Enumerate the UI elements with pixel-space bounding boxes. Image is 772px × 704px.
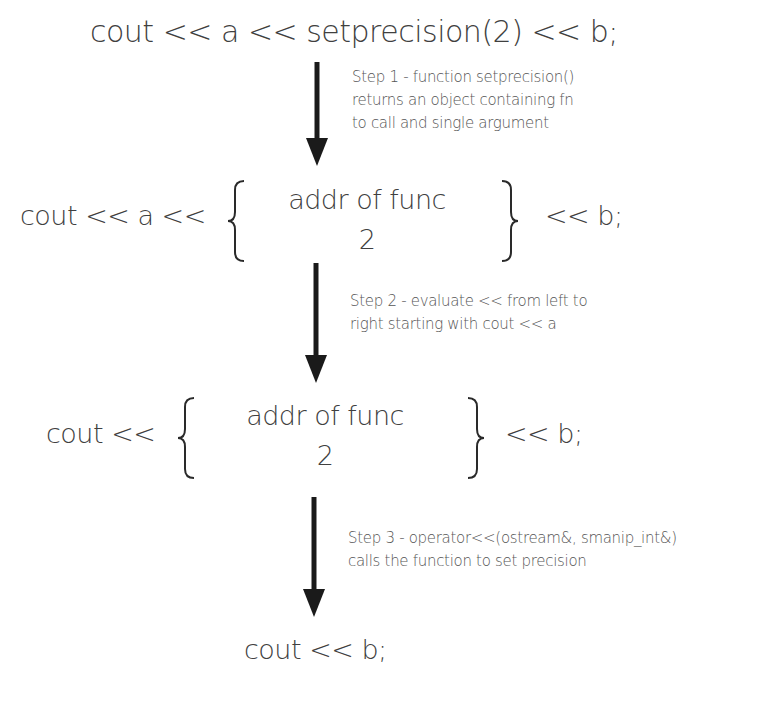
left-brace-icon <box>226 180 246 262</box>
stage1-expression: cout << a << setprecision(2) << b; <box>90 14 618 49</box>
stage3-object: addr of func 2 <box>220 396 430 476</box>
object-argument: 2 <box>262 220 472 260</box>
left-brace-icon <box>176 397 196 479</box>
step3-note: Step 3 - operator<<(ostream&, smanip_int… <box>348 527 677 573</box>
stage2-right: << b; <box>545 200 623 231</box>
right-brace-icon <box>466 397 486 479</box>
down-arrow-icon <box>304 263 328 383</box>
stage4-expression: cout << b; <box>244 634 387 665</box>
right-brace-icon <box>500 180 520 262</box>
stage3-left: cout << <box>46 418 155 449</box>
step1-line: to call and single argument <box>352 112 574 135</box>
step1-line: Step 1 - function setprecision() <box>352 66 574 89</box>
stage3-right: << b; <box>505 418 583 449</box>
object-argument: 2 <box>220 436 430 476</box>
step2-note: Step 2 - evaluate << from left to right … <box>350 290 587 336</box>
step1-note: Step 1 - function setprecision() returns… <box>352 66 574 135</box>
step2-line: Step 2 - evaluate << from left to <box>350 290 587 313</box>
down-arrow-icon <box>302 497 326 617</box>
down-arrow-icon <box>305 62 329 166</box>
object-func-address: addr of func <box>220 396 430 436</box>
stage2-object: addr of func 2 <box>262 180 472 260</box>
step2-line: right starting with cout << a <box>350 313 587 336</box>
object-func-address: addr of func <box>262 180 472 220</box>
step1-line: returns an object containing fn <box>352 89 574 112</box>
step3-line: calls the function to set precision <box>348 550 677 573</box>
stage2-left: cout << a << <box>20 200 206 231</box>
step3-line: Step 3 - operator<<(ostream&, smanip_int… <box>348 527 677 550</box>
